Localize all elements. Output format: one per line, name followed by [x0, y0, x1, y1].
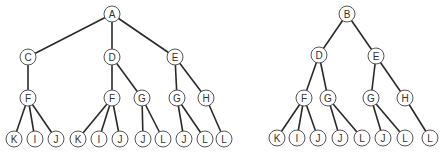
tree-node-j: J	[48, 131, 64, 147]
tree-node-k: K	[6, 131, 22, 147]
node-label: L	[160, 134, 166, 145]
tree-node-j: J	[375, 130, 391, 146]
tree-node-g: G	[363, 90, 379, 106]
node-label: G	[173, 93, 181, 104]
node-label: J	[338, 133, 343, 144]
tree-node-b: B	[339, 6, 355, 22]
node-label: G	[138, 93, 146, 104]
node-label: L	[221, 134, 227, 145]
edges	[14, 14, 224, 139]
tree-node-j: J	[176, 131, 192, 147]
node-label: A	[109, 9, 116, 20]
node-label: L	[202, 134, 208, 145]
node-label: E	[172, 52, 179, 63]
node-label: K	[75, 134, 82, 145]
edges	[277, 14, 430, 138]
tree-node-e: E	[368, 48, 384, 64]
tree-node-f: F	[20, 90, 36, 106]
tree-node-j: J	[112, 131, 128, 147]
tree-node-g: G	[320, 90, 336, 106]
tree-node-k: K	[70, 131, 86, 147]
tree-node-i: I	[91, 131, 107, 147]
tree-node-f: F	[104, 90, 120, 106]
node-label: B	[344, 9, 351, 20]
node-label: K	[274, 133, 281, 144]
tree-node-f: F	[296, 90, 312, 106]
tree-node-e: E	[167, 49, 183, 65]
left-tree: ACDEFFGGHKIJKIJJLJLL	[6, 6, 232, 147]
tree-node-i: I	[289, 130, 305, 146]
tree-node-l: L	[216, 131, 232, 147]
node-label: L	[402, 133, 408, 144]
tree-node-h: H	[397, 90, 413, 106]
tree-node-d: D	[104, 49, 120, 65]
node-label: F	[109, 93, 115, 104]
tree-node-g: G	[169, 90, 185, 106]
tree-node-l: L	[397, 130, 413, 146]
node-label: H	[401, 93, 408, 104]
node-label: J	[54, 134, 59, 145]
tree-node-i: I	[27, 131, 43, 147]
node-label: J	[141, 134, 146, 145]
node-label: J	[381, 133, 386, 144]
tree-node-j: J	[332, 130, 348, 146]
tree-node-h: H	[198, 90, 214, 106]
node-label: K	[11, 134, 18, 145]
tree-node-l: L	[354, 130, 370, 146]
tree-node-j: J	[310, 130, 326, 146]
node-label: G	[324, 93, 332, 104]
tree-node-c: C	[20, 49, 36, 65]
node-label: J	[182, 134, 187, 145]
node-label: J	[316, 133, 321, 144]
node-label: L	[359, 133, 365, 144]
right-tree: BDEFGGHKIJJLJLL	[269, 6, 438, 146]
node-label: L	[427, 133, 433, 144]
tree-node-l: L	[422, 130, 438, 146]
node-label: I	[98, 134, 101, 145]
tree-node-l: L	[155, 131, 171, 147]
node-label: F	[25, 93, 31, 104]
node-label: E	[373, 51, 380, 62]
tree-node-g: G	[134, 90, 150, 106]
edge-a-e	[112, 14, 175, 57]
node-label: I	[34, 134, 37, 145]
tree-node-l: L	[197, 131, 213, 147]
node-label: J	[118, 134, 123, 145]
node-label: F	[301, 93, 307, 104]
node-label: H	[202, 93, 209, 104]
edge-a-c	[28, 14, 112, 57]
node-label: D	[108, 52, 115, 63]
tree-node-k: K	[269, 130, 285, 146]
tree-node-a: A	[104, 6, 120, 22]
node-label: G	[367, 93, 375, 104]
node-label: D	[315, 50, 322, 61]
tree-node-d: D	[311, 47, 327, 63]
tree-node-j: J	[135, 131, 151, 147]
node-label: I	[296, 133, 299, 144]
tree-diagram-canvas: ACDEFFGGHKIJKIJJLJLL BDEFGGHKIJJLJLL	[0, 0, 441, 155]
node-label: C	[24, 52, 31, 63]
